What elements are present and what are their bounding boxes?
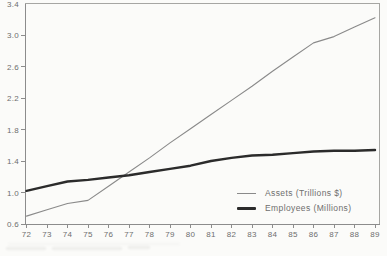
x-tick-label: 72 xyxy=(22,230,32,239)
assets-line-swatch xyxy=(237,193,256,194)
employees-line xyxy=(27,150,376,191)
x-tick-label: 89 xyxy=(370,230,380,239)
assets-line xyxy=(27,18,376,216)
x-tick-label: 76 xyxy=(104,230,114,239)
x-tick-label: 81 xyxy=(206,230,216,239)
y-tick-label: 2.6 xyxy=(7,63,19,72)
x-tick-label: 73 xyxy=(42,230,52,239)
assets-legend-label: Assets (Trillions $) xyxy=(265,188,343,198)
x-tick-label: 87 xyxy=(329,230,339,239)
x-tick-label: 88 xyxy=(350,230,360,239)
legend-item-assets: Assets (Trillions $) xyxy=(237,188,351,198)
x-tick-label: 84 xyxy=(268,230,278,239)
x-tick-label: 82 xyxy=(227,230,237,239)
x-tick-label: 86 xyxy=(309,230,319,239)
y-tick-label: 1.8 xyxy=(7,126,19,135)
line-chart: 0.61.01.41.82.22.63.03.47273747576777879… xyxy=(0,0,387,256)
legend-item-employees: Employees (Millions) xyxy=(237,203,351,213)
y-tick-label: 1.0 xyxy=(7,189,19,198)
y-tick-label: 2.2 xyxy=(7,94,19,103)
y-tick-label: 1.4 xyxy=(7,157,19,166)
chart-legend: Assets (Trillions $) Employees (Millions… xyxy=(237,188,351,213)
x-tick-label: 80 xyxy=(186,230,196,239)
x-tick-label: 85 xyxy=(288,230,298,239)
y-tick-label: 0.6 xyxy=(7,220,19,229)
x-tick-label: 75 xyxy=(83,230,93,239)
y-tick-label: 3.0 xyxy=(7,31,19,40)
cropped-caption-remnant xyxy=(6,247,46,250)
employees-line-swatch xyxy=(237,207,256,210)
x-tick-label: 78 xyxy=(145,230,155,239)
chart-page: 0.61.01.41.82.22.63.03.47273747576777879… xyxy=(0,0,387,256)
x-tick-label: 74 xyxy=(63,230,73,239)
x-tick-label: 83 xyxy=(247,230,257,239)
cropped-caption-remnant xyxy=(52,247,122,250)
y-tick-label: 3.4 xyxy=(7,0,19,9)
cropped-caption-remnant xyxy=(8,243,180,245)
cropped-caption-remnant xyxy=(128,246,150,249)
employees-legend-label: Employees (Millions) xyxy=(265,203,351,213)
x-tick-label: 79 xyxy=(165,230,175,239)
x-tick-label: 77 xyxy=(124,230,134,239)
